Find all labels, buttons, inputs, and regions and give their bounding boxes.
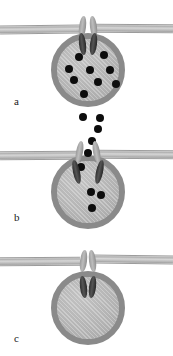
channel-lobe-left bbox=[79, 250, 89, 273]
membrane-segment-right bbox=[95, 150, 173, 160]
released-granule bbox=[96, 114, 104, 122]
fusion-pore-stalk-right bbox=[93, 160, 103, 184]
granule bbox=[106, 66, 114, 74]
panel-label-c: c bbox=[14, 333, 19, 344]
vesicle bbox=[51, 155, 125, 229]
panel-label-b: b bbox=[14, 212, 20, 223]
channel-protein-in-membrane bbox=[80, 250, 96, 272]
fusion-pore-stalk-left bbox=[73, 160, 83, 184]
granule bbox=[100, 51, 108, 59]
channel-protein-vesicular bbox=[79, 33, 97, 55]
released-granule bbox=[79, 113, 87, 121]
released-granule bbox=[94, 125, 102, 133]
granule bbox=[65, 65, 73, 73]
granule bbox=[70, 76, 78, 84]
membrane-segment-left bbox=[0, 151, 78, 161]
membrane-segment-left bbox=[0, 25, 80, 35]
granule bbox=[94, 78, 102, 86]
granule bbox=[112, 80, 120, 88]
membrane-segment-right bbox=[93, 24, 173, 34]
channel-lobe-left bbox=[79, 276, 89, 299]
panel-label-a: a bbox=[14, 96, 19, 107]
granule bbox=[88, 204, 96, 212]
granule bbox=[87, 188, 95, 196]
granule bbox=[86, 66, 94, 74]
channel-lobe-right bbox=[89, 33, 99, 56]
channel-lobe-right bbox=[88, 250, 98, 273]
granule bbox=[80, 90, 88, 98]
channel-protein-on-vesicle bbox=[80, 276, 96, 298]
channel-lobe-left bbox=[71, 160, 83, 185]
granule bbox=[97, 191, 105, 199]
channel-lobe-left bbox=[78, 33, 88, 56]
membrane-segment-left bbox=[0, 257, 80, 267]
membrane-segment-right bbox=[93, 254, 173, 264]
channel-lobe-right bbox=[88, 276, 98, 299]
